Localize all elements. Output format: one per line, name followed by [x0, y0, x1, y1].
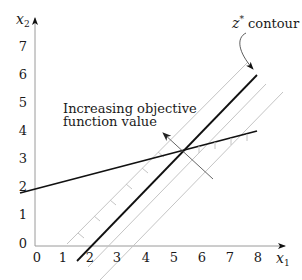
objective-contours — [67, 62, 283, 280]
objective-gradient-arrow — [163, 133, 213, 179]
y-tick-labels: 0 1 2 3 4 5 6 7 — [19, 39, 27, 251]
x-axis-label: x1 — [276, 250, 290, 268]
svg-text:7: 7 — [19, 39, 27, 54]
lp-graphical-solution-diagram: z* contour Increasing objective function… — [0, 0, 302, 280]
svg-text:7: 7 — [226, 250, 234, 265]
svg-text:0: 0 — [19, 236, 27, 251]
svg-text:2: 2 — [86, 250, 94, 265]
svg-text:3: 3 — [19, 151, 27, 166]
axes — [35, 18, 285, 246]
constraint-line — [20, 131, 257, 193]
svg-text:3: 3 — [113, 250, 121, 265]
y-axis-label: x2 — [16, 11, 30, 29]
x-tick-labels: 0 1 2 3 4 5 6 7 8 — [33, 250, 262, 265]
svg-text:4: 4 — [142, 250, 150, 265]
objective-annotation-line2: function value — [63, 114, 157, 129]
svg-text:1: 1 — [59, 250, 67, 265]
svg-text:5: 5 — [170, 250, 178, 265]
svg-text:0: 0 — [33, 250, 41, 265]
svg-text:1: 1 — [19, 207, 27, 222]
svg-text:6: 6 — [19, 67, 27, 82]
z-star-contour-label: z* contour — [231, 14, 300, 31]
svg-text:4: 4 — [19, 123, 27, 138]
svg-text:6: 6 — [198, 250, 206, 265]
contour-hatch-marks — [78, 152, 164, 238]
svg-text:8: 8 — [254, 250, 262, 265]
svg-text:5: 5 — [19, 95, 27, 110]
svg-text:2: 2 — [19, 179, 27, 194]
